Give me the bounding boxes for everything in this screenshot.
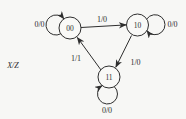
label-self-loop-10: 0/0 xyxy=(167,20,177,29)
label-transition-10-11: 1/0 xyxy=(130,58,140,67)
label-transition-11-00: 1/1 xyxy=(71,54,81,63)
transition-00-to-10 xyxy=(81,25,126,28)
label-self-loop-00: 0/0 xyxy=(34,20,44,29)
transition-10-to-11 xyxy=(116,36,132,68)
label-self-loop-11: 0/0 xyxy=(102,106,112,115)
label-transition-00-10: 1/0 xyxy=(97,15,107,24)
state-diagram: 00 10 11 0/0 1/0 0/0 1/0 1/1 0/0 X/Z xyxy=(0,0,186,119)
state-diagram-canvas: 00 10 11 0/0 1/0 0/0 1/0 1/1 0/0 X/Z xyxy=(0,0,186,119)
state-label-10: 10 xyxy=(134,21,142,30)
legend-label: X/Z xyxy=(6,61,19,70)
self-loop-10 xyxy=(147,15,165,35)
state-label-00: 00 xyxy=(66,24,74,33)
state-label-11: 11 xyxy=(105,73,112,82)
